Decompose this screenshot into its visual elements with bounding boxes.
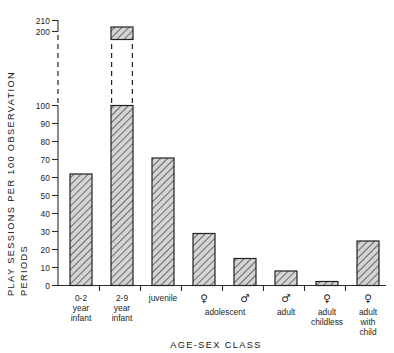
- y-tick-label: 90: [40, 119, 50, 129]
- x-category-label: 2-9: [116, 293, 128, 303]
- play-sessions-bar-chart: PLAY SESSIONS PER 100 OBSERVATION PERIOD…: [0, 0, 394, 353]
- x-category-label: juvenile: [148, 293, 178, 303]
- x-category-label: year: [73, 303, 90, 313]
- bar-infant-0-2: [70, 174, 92, 286]
- x-category-label: adult: [277, 307, 296, 317]
- bar-adolescent-female: [193, 234, 215, 286]
- chart-background: [0, 0, 394, 353]
- bar-juvenile: [152, 158, 174, 286]
- female-symbol-icon: ♀: [200, 292, 208, 304]
- y-tick-label: 60: [40, 173, 50, 183]
- x-category-label: childless: [311, 317, 343, 327]
- x-category-label: infant: [112, 313, 133, 323]
- chart-canvas: PLAY SESSIONS PER 100 OBSERVATION PERIOD…: [0, 0, 394, 353]
- y-axis-title-line1: PLAY SESSIONS PER 100 OBSERVATION: [6, 71, 16, 296]
- x-category-label: child: [359, 327, 377, 337]
- bar-adult-male: [275, 271, 297, 286]
- x-category-label: 0-2: [75, 293, 87, 303]
- y-tick-label: 50: [40, 191, 50, 201]
- x-category-label: year: [114, 303, 131, 313]
- x-category-label: adolescent: [205, 307, 246, 317]
- y-tick-label: 80: [40, 137, 50, 147]
- bar-adolescent-male: [234, 259, 256, 286]
- male-symbol-icon: ♂: [240, 292, 249, 304]
- female-symbol-icon: ♀: [364, 292, 372, 304]
- y-axis-title-line2: PERIODS: [19, 245, 29, 296]
- bar-adult-female-childless: [316, 282, 338, 286]
- x-category-label: with: [360, 317, 376, 327]
- bar-adult-female-with-child: [357, 241, 379, 286]
- y-tick-label: 210: [36, 16, 51, 26]
- y-tick-label: 200: [36, 27, 51, 37]
- y-tick-label: 70: [40, 155, 50, 165]
- y-tick-label: 100: [36, 101, 51, 111]
- y-tick-label: 10: [40, 263, 50, 273]
- x-category-label: infant: [71, 313, 92, 323]
- y-tick-label: 30: [40, 227, 50, 237]
- y-tick-label: 0: [45, 281, 50, 291]
- x-category-label-group: juvenile: [148, 293, 178, 303]
- x-axis-title: AGE-SEX CLASS: [170, 340, 262, 350]
- y-tick-label: 20: [40, 245, 50, 255]
- x-category-label: adult: [318, 307, 337, 317]
- male-symbol-icon: ♂: [281, 292, 290, 304]
- x-category-label: adult: [359, 307, 378, 317]
- female-symbol-icon: ♀: [323, 292, 331, 304]
- y-tick-label: 40: [40, 209, 50, 219]
- x-category-label-group: ♂: [240, 292, 249, 304]
